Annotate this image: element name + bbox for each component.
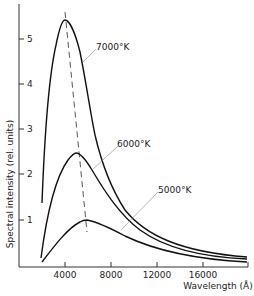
svg-text:12000: 12000 xyxy=(143,270,172,280)
y-tick-labels: 5 4 3 2 1 xyxy=(27,34,33,225)
axes xyxy=(19,4,248,267)
label-7000k: 7000°K xyxy=(96,42,130,52)
svg-text:2: 2 xyxy=(27,169,33,179)
svg-text:1: 1 xyxy=(27,215,33,225)
label-6000k: 6000°K xyxy=(117,139,151,149)
svg-text:8000: 8000 xyxy=(100,270,123,280)
svg-text:4: 4 xyxy=(27,79,33,89)
curve-labels: 7000°K 6000°K 5000°K xyxy=(96,42,192,195)
wien-displacement-line xyxy=(65,12,87,232)
x-tick-labels: 4000 8000 12000 16000 xyxy=(54,270,218,280)
label-5000k: 5000°K xyxy=(158,185,192,195)
x-axis-label: Wavelength (Å) xyxy=(183,280,252,291)
svg-text:16000: 16000 xyxy=(189,270,218,280)
y-ticks xyxy=(19,39,24,220)
x-ticks xyxy=(65,262,203,267)
svg-text:3: 3 xyxy=(27,124,33,134)
svg-text:5: 5 xyxy=(27,34,33,44)
svg-text:4000: 4000 xyxy=(54,270,77,280)
blackbody-spectrum-chart: 5 4 3 2 1 4000 8000 12000 16000 Waveleng… xyxy=(0,0,254,296)
y-axis-label: Spectral intensity (rel. units) xyxy=(5,120,15,248)
